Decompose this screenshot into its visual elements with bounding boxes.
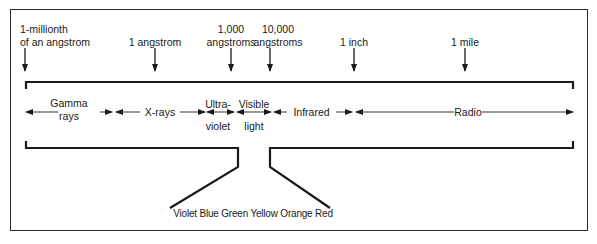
lower-bracket-left — [26, 141, 238, 208]
band-label-xrays: X-rays — [140, 106, 180, 119]
scale-marker-arrows — [25, 48, 465, 71]
marker-label-millionth-angstrom: 1-millionth of an angstrom — [20, 23, 90, 49]
upper-bracket — [26, 82, 573, 89]
band-label-gamma: Gamma rays — [44, 97, 94, 123]
visible-colors-label: Violet Blue Green Yellow Orange Red — [168, 207, 338, 220]
marker-label-10000-angstroms: 10,000 angstroms — [248, 23, 308, 49]
band-label-infrared: Infrared — [287, 106, 336, 119]
marker-label-inch: 1 inch — [329, 36, 379, 49]
band-label-radio: Radio — [454, 106, 482, 119]
marker-label-angstrom: 1 angstrom — [125, 36, 185, 49]
band-label-visible: Visible light — [232, 98, 276, 133]
marker-label-mile: 1 mile — [440, 36, 490, 49]
lower-bracket-right — [270, 141, 573, 208]
